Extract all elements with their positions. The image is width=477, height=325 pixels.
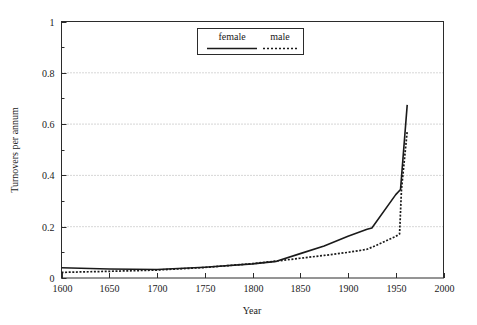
y-axis-title: Turnovers per annum [9, 107, 20, 193]
x-tick-label: 1900 [339, 283, 359, 294]
x-tick-label: 1650 [100, 283, 120, 294]
legend-label-male: male [270, 31, 290, 42]
x-tick-label: 1750 [196, 283, 216, 294]
x-tick-label: 1800 [244, 283, 264, 294]
x-tick-label: 1850 [291, 283, 311, 294]
y-tick-label: 0.2 [42, 222, 55, 233]
x-axis-title: Year [243, 305, 262, 316]
x-tick-label: 2000 [435, 283, 455, 294]
y-tick-label: 0.4 [42, 170, 55, 181]
x-tick-label: 1950 [387, 283, 407, 294]
chart-container: 160016501700175018001850190019502000 00.… [0, 0, 477, 325]
x-tick-label: 1600 [53, 283, 73, 294]
y-tick-label: 0.8 [42, 68, 55, 79]
y-tick-label: 0.6 [42, 119, 55, 130]
x-tick-label: 1700 [148, 283, 168, 294]
line-chart: 160016501700175018001850190019502000 00.… [0, 0, 477, 325]
y-tick-label: 1 [50, 17, 55, 28]
y-tick-label: 0 [50, 273, 55, 284]
legend: female male [198, 29, 304, 55]
legend-label-female: female [218, 31, 246, 42]
x-axis-tick-labels: 160016501700175018001850190019502000 [53, 283, 455, 294]
